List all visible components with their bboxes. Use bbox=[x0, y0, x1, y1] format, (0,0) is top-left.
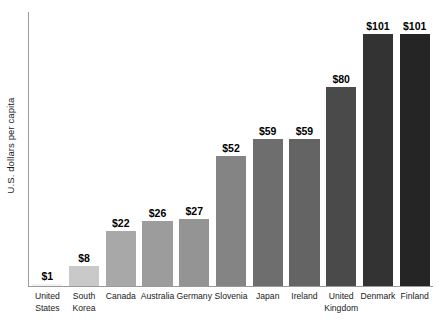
x-axis-category-line: Korea bbox=[66, 303, 103, 315]
bar bbox=[326, 87, 356, 286]
x-axis-category-label: Ireland bbox=[286, 291, 323, 303]
x-axis-category-label: Slovenia bbox=[213, 291, 250, 303]
x-axis-category-label: Australia bbox=[139, 291, 176, 303]
bar-value-label: $8 bbox=[63, 253, 105, 264]
bar-value-label: $1 bbox=[26, 271, 68, 282]
x-axis-category-line: States bbox=[29, 303, 66, 315]
bar bbox=[400, 34, 430, 286]
bar-group: $1 bbox=[32, 12, 62, 286]
bar bbox=[142, 221, 172, 286]
bar bbox=[32, 284, 62, 286]
bar-group: $59 bbox=[289, 12, 319, 286]
bar bbox=[69, 266, 99, 286]
bar-group: $8 bbox=[69, 12, 99, 286]
x-axis-category-line: United bbox=[323, 291, 360, 303]
bar-value-label: $52 bbox=[210, 143, 252, 154]
bar-group: $27 bbox=[179, 12, 209, 286]
x-axis-category-label: Denmark bbox=[360, 291, 397, 303]
x-axis-category-line: Australia bbox=[139, 291, 176, 303]
bar-value-label: $101 bbox=[394, 21, 436, 32]
x-axis-category-label: Japan bbox=[249, 291, 286, 303]
bar-value-label: $22 bbox=[100, 218, 142, 229]
bar-value-label: $27 bbox=[173, 206, 215, 217]
bar-chart: U.S. dollars per capita $1$8$22$26$27$52… bbox=[0, 0, 440, 329]
y-axis-label: U.S. dollars per capita bbox=[0, 0, 22, 290]
bar-group: $59 bbox=[253, 12, 283, 286]
bar-group: $26 bbox=[142, 12, 172, 286]
plot-area: $1$8$22$26$27$52$59$59$80$101$101 bbox=[29, 12, 433, 286]
bar bbox=[216, 156, 246, 286]
x-axis-category-line: Canada bbox=[102, 291, 139, 303]
x-axis-category-label: Finland bbox=[396, 291, 433, 303]
x-axis-category-line: Germany bbox=[176, 291, 213, 303]
x-axis-line bbox=[28, 286, 433, 287]
x-axis-category-label: UnitedStates bbox=[29, 291, 66, 314]
x-axis-category-line: Japan bbox=[249, 291, 286, 303]
bar-group: $101 bbox=[363, 12, 393, 286]
x-axis-category-label: UnitedKingdom bbox=[323, 291, 360, 314]
bar-group: $80 bbox=[326, 12, 356, 286]
bar bbox=[253, 139, 283, 286]
x-axis-labels: UnitedStatesSouthKoreaCanadaAustraliaGer… bbox=[29, 291, 433, 327]
x-axis-category-label: Canada bbox=[102, 291, 139, 303]
y-axis-label-text: U.S. dollars per capita bbox=[6, 97, 17, 193]
x-axis-category-label: SouthKorea bbox=[66, 291, 103, 314]
bar bbox=[289, 139, 319, 286]
x-axis-category-line: South bbox=[66, 291, 103, 303]
bar-value-label: $80 bbox=[320, 74, 362, 85]
x-axis-category-line: Slovenia bbox=[213, 291, 250, 303]
x-axis-category-label: Germany bbox=[176, 291, 213, 303]
bar-value-label: $59 bbox=[283, 126, 325, 137]
bar bbox=[179, 219, 209, 286]
bar bbox=[363, 34, 393, 286]
bar bbox=[106, 231, 136, 286]
bar-group: $22 bbox=[106, 12, 136, 286]
x-axis-category-line: Ireland bbox=[286, 291, 323, 303]
x-axis-category-line: Denmark bbox=[360, 291, 397, 303]
x-axis-category-line: United bbox=[29, 291, 66, 303]
bar-group: $101 bbox=[400, 12, 430, 286]
x-axis-category-line: Finland bbox=[396, 291, 433, 303]
bar-group: $52 bbox=[216, 12, 246, 286]
x-axis-category-line: Kingdom bbox=[323, 303, 360, 315]
